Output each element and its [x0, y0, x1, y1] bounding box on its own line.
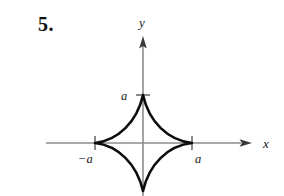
figure-container: 5. y x −a a a — [0, 0, 284, 196]
x-tick-label-positive-a: a — [195, 152, 201, 166]
astroid-plot: y x −a a a — [0, 0, 284, 196]
x-axis-arrow-icon — [240, 139, 253, 147]
x-tick-label-negative-a: −a — [78, 152, 93, 166]
x-axis-label: x — [262, 136, 269, 151]
y-tick-label-positive-a: a — [121, 89, 127, 103]
y-axis-label: y — [137, 15, 145, 30]
